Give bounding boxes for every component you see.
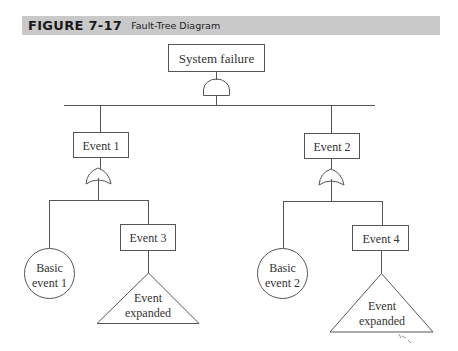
pencil-mark (399, 334, 411, 343)
expanded-3-line2: expanded (125, 306, 171, 320)
basic-event-1-line1: Basic (36, 261, 63, 275)
event-1-label: Event 1 (83, 139, 120, 153)
expanded-4-line2: expanded (359, 314, 405, 328)
event-2-label: Event 2 (314, 140, 351, 154)
basic-event-1-line2: event 1 (32, 276, 67, 290)
event-3-label: Event 3 (130, 231, 167, 245)
expanded-3-line1: Event (134, 291, 163, 305)
basic-event-2-line2: event 2 (265, 276, 300, 290)
fault-tree-diagram: System failure Event 1 Event 2 Event 3 E… (0, 0, 458, 351)
system-failure-label: System failure (179, 51, 255, 66)
expanded-4-line1: Event (368, 299, 397, 313)
basic-event-2-line1: Basic (269, 261, 296, 275)
and-gate-icon (204, 79, 230, 96)
event-4-label: Event 4 (363, 232, 400, 246)
